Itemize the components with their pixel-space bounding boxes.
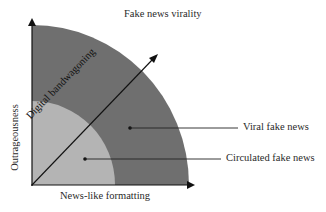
y-axis-label: Outrageousness [9, 104, 20, 171]
y-axis-arrow-icon [28, 18, 36, 26]
circulated-label: Circulated fake news [226, 152, 315, 163]
x-axis-arrow-icon [187, 181, 195, 189]
diagram-title: Fake news virality [124, 8, 202, 19]
diagram-canvas [0, 0, 326, 212]
x-axis-label: News-like formatting [60, 190, 150, 201]
viral-label: Viral fake news [243, 121, 309, 132]
